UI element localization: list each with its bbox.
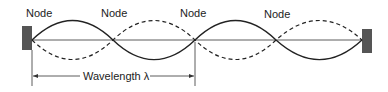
arrowhead-left-icon — [33, 74, 38, 78]
node-label: Node — [101, 7, 127, 19]
node-label: Node — [26, 7, 52, 19]
node-label: Node — [264, 8, 290, 20]
right-wall — [362, 29, 372, 53]
node-label: Node — [180, 7, 206, 19]
wavelength-label: Wavelength λ — [83, 70, 149, 82]
arrowhead-right-icon — [189, 74, 194, 78]
left-wall — [22, 26, 32, 50]
